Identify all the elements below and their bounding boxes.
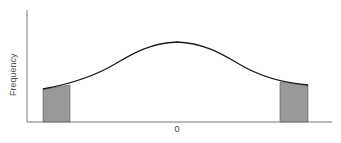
normal-curve xyxy=(43,42,308,89)
x-tick-zero: 0 xyxy=(174,124,179,134)
y-axis-label: Frequency xyxy=(8,53,18,96)
distribution-chart: Frequency 0 xyxy=(0,0,341,143)
left-tail-shade xyxy=(43,85,70,122)
right-tail-shade xyxy=(280,82,308,122)
